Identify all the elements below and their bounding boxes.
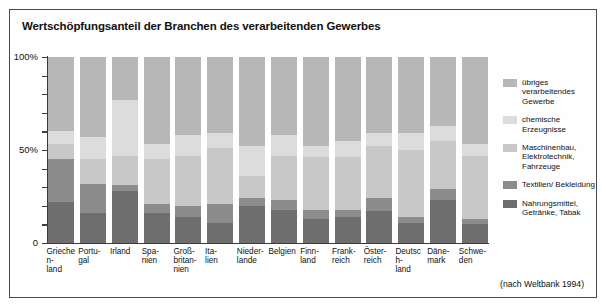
bar-segment — [48, 144, 74, 159]
bar-segment — [48, 57, 74, 131]
bar-column — [112, 57, 138, 243]
x-axis-label: Ita-lien — [205, 247, 234, 293]
y-tick — [42, 150, 47, 151]
y-tick — [42, 94, 47, 95]
chart-legend: übriges verarbeitendes Gewerbechemische … — [503, 78, 595, 226]
y-tick — [42, 113, 47, 114]
bar-column — [303, 57, 329, 243]
bar-segment — [335, 157, 361, 209]
bar-segment — [175, 57, 201, 135]
bar-segment — [80, 184, 106, 214]
bar-segment — [335, 217, 361, 243]
bar-segment — [271, 156, 297, 201]
bar-segment — [239, 57, 265, 146]
x-axis-label: Däne-mark — [427, 247, 456, 293]
chart-title: Wertschöpfungsanteil der Branchen des ve… — [22, 20, 381, 32]
bar-segment — [239, 206, 265, 243]
legend-item: übriges verarbeitendes Gewerbe — [503, 78, 595, 106]
y-tick — [42, 224, 47, 225]
y-tick — [42, 76, 47, 77]
y-tick-label: 0 — [4, 237, 38, 248]
stacked-bars — [48, 57, 488, 243]
y-tick-label: 100% — [4, 51, 38, 62]
x-axis-label: Schwe-den — [459, 247, 488, 293]
bar-segment — [112, 100, 138, 156]
bar-segment — [175, 217, 201, 243]
bar-segment — [144, 57, 170, 144]
bar-column — [48, 57, 74, 243]
bar-segment — [207, 223, 233, 243]
bar-segment — [335, 210, 361, 217]
bar-segment — [462, 57, 488, 144]
bar-column — [398, 57, 424, 243]
bar-segment — [271, 135, 297, 155]
bar-segment — [271, 57, 297, 135]
bar-segment — [303, 210, 329, 219]
bar-segment — [430, 200, 456, 243]
bar-segment — [175, 135, 201, 155]
bar-segment — [144, 213, 170, 243]
bar-segment — [239, 198, 265, 205]
x-axis-labels: Griechen-landPortu-galIrlandSpa-nienGroß… — [48, 247, 488, 293]
y-tick — [42, 243, 47, 244]
bar-segment — [430, 57, 456, 126]
bar-segment — [144, 159, 170, 204]
bar-segment — [112, 57, 138, 100]
y-tick — [42, 131, 47, 132]
bar-segment — [398, 150, 424, 217]
bar-segment — [80, 159, 106, 183]
bar-column — [80, 57, 106, 243]
bar-segment — [175, 206, 201, 217]
legend-label: Nahrungsmittel, Getränke, Tabak — [522, 199, 595, 218]
legend-label: Maschinenbau, Elektrotechnik, Fahrzeuge — [522, 143, 595, 171]
legend-swatch — [503, 144, 517, 152]
x-axis-label: Groß-britan-nien — [173, 247, 202, 293]
bar-segment — [48, 159, 74, 202]
bar-segment — [207, 148, 233, 204]
x-axis-label: Spa-nien — [142, 247, 171, 293]
bar-segment — [398, 223, 424, 243]
bar-segment — [239, 176, 265, 198]
bar-column — [207, 57, 233, 243]
y-tick — [42, 187, 47, 188]
bar-segment — [303, 57, 329, 146]
bar-segment — [207, 133, 233, 148]
y-tick — [42, 169, 47, 170]
bar-segment — [80, 57, 106, 137]
x-axis-label: Portu-gal — [78, 247, 107, 293]
legend-item: Maschinenbau, Elektrotechnik, Fahrzeuge — [503, 143, 595, 171]
bar-column — [430, 57, 456, 243]
bar-segment — [430, 126, 456, 141]
bar-segment — [48, 131, 74, 144]
legend-label: übriges verarbeitendes Gewerbe — [522, 78, 595, 106]
bar-segment — [366, 198, 392, 211]
bar-segment — [462, 156, 488, 219]
y-tick — [42, 57, 47, 58]
x-axis-line — [47, 243, 489, 244]
bar-segment — [239, 146, 265, 176]
plot-area — [48, 57, 488, 243]
bar-segment — [207, 57, 233, 133]
bar-column — [462, 57, 488, 243]
x-axis-label: Deutsch-land — [395, 247, 424, 293]
bar-segment — [303, 219, 329, 243]
bar-segment — [335, 141, 361, 158]
legend-swatch — [503, 200, 517, 208]
bar-segment — [366, 211, 392, 243]
bar-segment — [112, 191, 138, 243]
bar-segment — [80, 213, 106, 243]
bar-segment — [366, 57, 392, 133]
bar-segment — [366, 133, 392, 146]
bar-segment — [366, 146, 392, 198]
source-note: (nach Weltbank 1994) — [500, 279, 584, 289]
legend-item: chemische Erzeugnisse — [503, 115, 595, 134]
legend-swatch — [503, 116, 517, 124]
bar-segment — [207, 204, 233, 223]
bar-segment — [430, 189, 456, 200]
bar-segment — [398, 133, 424, 150]
bar-segment — [48, 202, 74, 243]
bar-segment — [271, 200, 297, 209]
bar-column — [239, 57, 265, 243]
bar-segment — [303, 146, 329, 157]
bar-column — [366, 57, 392, 243]
